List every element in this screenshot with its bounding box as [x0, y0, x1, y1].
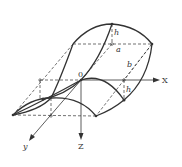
label-b: b	[127, 60, 132, 69]
axes	[31, 80, 157, 138]
label-origin: 0	[78, 70, 83, 79]
z-axis-arrow-icon	[79, 133, 84, 140]
label-z-axis: Z	[78, 142, 84, 151]
saddle-surface-diagram: h a b h 0 X y Z	[0, 0, 182, 167]
label-a: a	[116, 45, 121, 54]
label-h-top: h	[114, 28, 119, 37]
label-h-right: h	[126, 85, 131, 94]
x-axis-arrow-icon	[153, 78, 160, 83]
y-axis-arrow-icon	[29, 134, 35, 141]
label-x-axis: X	[162, 76, 168, 85]
label-y-axis: y	[22, 142, 28, 151]
